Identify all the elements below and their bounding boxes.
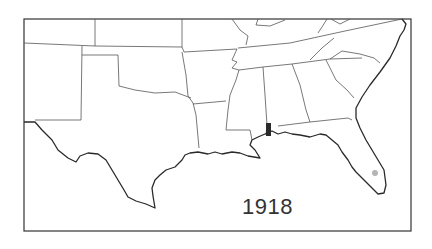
year-label: 1918 (242, 194, 293, 220)
map-canvas (0, 0, 432, 249)
occurrence-dot-florida (372, 170, 378, 176)
range-map: 1918 (0, 0, 432, 249)
occurrence-marker-mobile (266, 123, 271, 136)
